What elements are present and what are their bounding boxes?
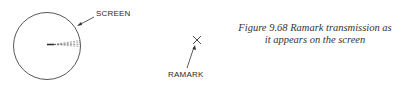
caption-line-2: it appears on the screen — [222, 34, 408, 46]
ramark-trace — [47, 41, 81, 47]
screen-circle — [14, 13, 81, 80]
caption-line-1: Figure 9.68 Ramark transmission as — [222, 22, 408, 34]
ramark-x-icon — [193, 36, 201, 44]
ramark-label: RAMARK — [168, 70, 203, 79]
screen-label: SCREEN — [96, 9, 131, 18]
ramark-diagram: SCREEN RAMARK Figure 9.68 Ramark transmi… — [0, 0, 410, 88]
figure-caption: Figure 9.68 Ramark transmission as it ap… — [222, 22, 408, 46]
ramark-arrow-icon — [187, 45, 196, 68]
screen-arrow-icon — [77, 17, 94, 26]
